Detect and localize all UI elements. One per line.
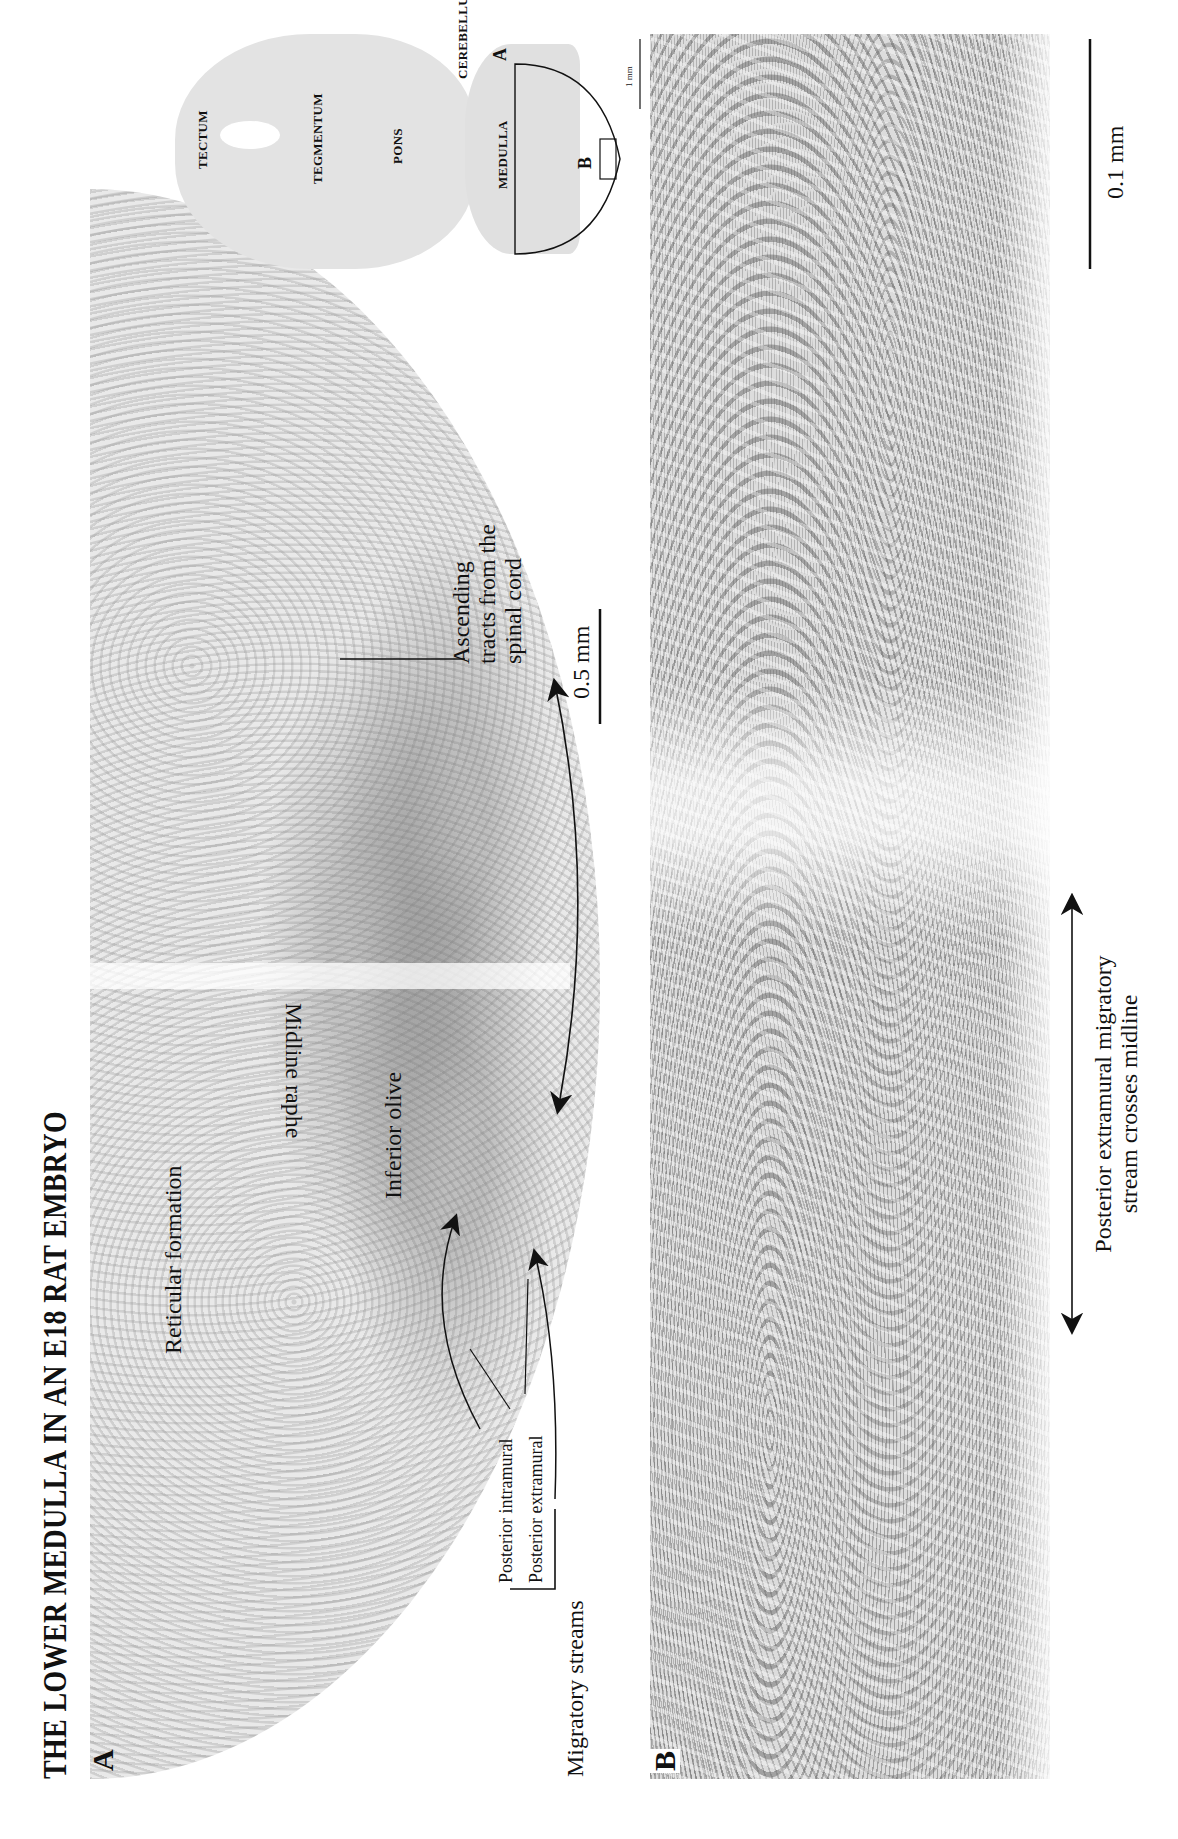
panel-b-annotations	[0, 0, 1178, 1839]
panel-b-annotation: Posterior extramural migratory stream cr…	[1090, 924, 1142, 1284]
scale-bar-0-1mm-label: 0.1 mm	[1102, 126, 1129, 199]
panel-b-annotation-line-2: stream crosses midline	[1116, 924, 1142, 1284]
figure-page: THE LOWER MEDULLA IN AN E18 RAT EMBRYO A…	[0, 0, 1178, 1839]
panel-b-annotation-line-1: Posterior extramural migratory	[1090, 924, 1116, 1284]
